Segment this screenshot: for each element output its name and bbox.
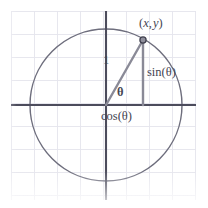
unit-circle-svg <box>0 0 208 208</box>
point-label-comma: , <box>149 16 152 30</box>
point-label-close-paren: ) <box>158 16 162 30</box>
unit-circle-figure: (x, y) sin(θ) cos(θ) 1 θ <box>0 0 208 208</box>
angle-theta-label: θ <box>117 86 124 99</box>
edge-fade-left <box>0 0 208 208</box>
point-coordinate-label: (x, y) <box>139 17 163 30</box>
sine-label: sin(θ) <box>147 66 176 79</box>
radius-length-label: 1 <box>103 54 109 67</box>
cosine-label: cos(θ) <box>101 110 132 123</box>
